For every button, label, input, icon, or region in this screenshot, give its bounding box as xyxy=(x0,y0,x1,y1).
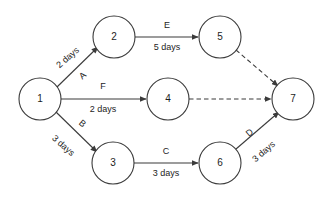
edge-activity-label-d: D xyxy=(244,126,256,138)
node-label-7: 7 xyxy=(290,93,296,104)
node-label-6: 6 xyxy=(217,157,223,168)
node-label-4: 4 xyxy=(165,93,171,104)
node-2[interactable]: 2 xyxy=(93,16,135,58)
edge-duration-label-b: 3 days xyxy=(50,133,77,158)
edge-duration-label-a: 2 days xyxy=(54,45,81,70)
edge-duration-label-d: 3 days xyxy=(250,139,277,164)
node-label-5: 5 xyxy=(217,31,223,42)
network-diagram: 1234567 A2 daysB3 daysF2 daysE5 daysC3 d… xyxy=(0,0,328,199)
node-5[interactable]: 5 xyxy=(199,16,241,58)
edge-activity-label-e: E xyxy=(164,20,170,30)
edge-duration-label-c: 3 days xyxy=(153,168,180,178)
node-3[interactable]: 3 xyxy=(92,142,134,184)
edge-duration-label-f: 2 days xyxy=(90,104,117,114)
edge-activity-label-f: F xyxy=(100,81,106,91)
edge-5-to-7 xyxy=(236,50,278,86)
edge-duration-label-e: 5 days xyxy=(154,42,181,52)
node-7[interactable]: 7 xyxy=(272,78,314,120)
nodes-layer: 1234567 xyxy=(19,16,314,184)
node-label-1: 1 xyxy=(37,93,43,104)
node-label-2: 2 xyxy=(111,31,117,42)
network-diagram-canvas: 1234567 A2 daysB3 daysF2 daysE5 daysC3 d… xyxy=(0,0,328,199)
node-4[interactable]: 4 xyxy=(147,78,189,120)
node-6[interactable]: 6 xyxy=(199,142,241,184)
edge-activity-label-c: C xyxy=(163,146,170,156)
node-label-3: 3 xyxy=(110,157,116,168)
edge-activity-label-a: A xyxy=(77,70,88,81)
node-1[interactable]: 1 xyxy=(19,78,61,120)
edge-activity-label-b: B xyxy=(77,118,88,129)
